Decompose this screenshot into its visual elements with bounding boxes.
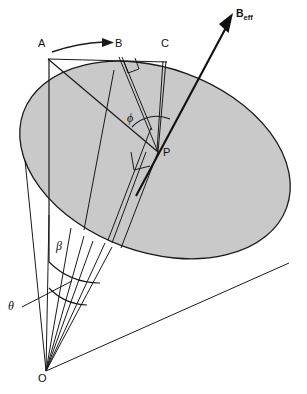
apex-generator-5 (46, 243, 105, 371)
b-eff-arrowhead (219, 13, 233, 33)
label-point-b: B (115, 38, 122, 49)
label-point-a: A (38, 38, 45, 49)
rim-arrow-arc (52, 42, 104, 52)
base-ellipse (0, 26, 307, 295)
b-eff-base: B (236, 7, 244, 19)
beta-arc (49, 262, 100, 283)
rim-direction-arrow (52, 38, 114, 52)
label-angle-beta: β (56, 240, 62, 252)
diagram-canvas (0, 0, 307, 394)
rim-arrow-head (102, 38, 114, 47)
label-point-c: C (161, 38, 169, 49)
label-angle-phi: ϕ (127, 112, 133, 124)
apex-generator-4 (46, 241, 93, 371)
label-point-p: P (163, 147, 170, 158)
apex-generator-3 (46, 236, 84, 371)
b-eff-subscript: eff (244, 13, 253, 22)
cone-right-generator (46, 263, 289, 371)
label-point-o: O (38, 373, 47, 384)
ellipse-outline (0, 26, 307, 295)
label-angle-theta: θ (8, 300, 14, 312)
label-b-eff: Beff (236, 8, 253, 22)
apex-generator-6 (46, 247, 112, 371)
geometry-diagram: A B C P O ϕ β θ Beff (0, 0, 307, 394)
